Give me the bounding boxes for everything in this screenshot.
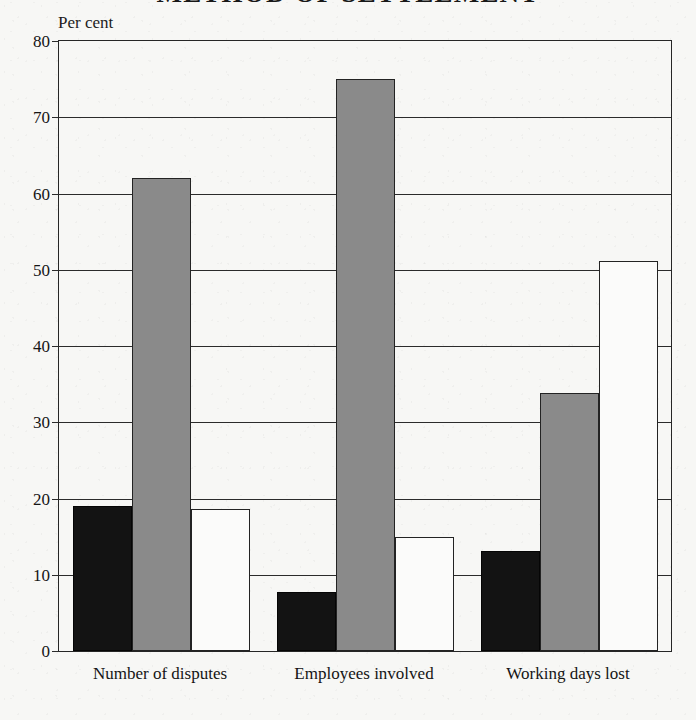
- y-tick-label-40: 40: [33, 338, 50, 355]
- y-tick-mark-50: [52, 270, 59, 271]
- y-tick-mark-0: [52, 651, 59, 652]
- y-tick-mark-60: [52, 194, 59, 195]
- y-tick-label-70: 70: [33, 109, 50, 126]
- y-tick-label-20: 20: [33, 490, 50, 507]
- bar-grey-3: [540, 393, 599, 651]
- x-axis-label-2: Employees involved: [262, 664, 466, 684]
- y-tick-mark-30: [52, 422, 59, 423]
- y-axis-unit-label: Per cent: [58, 14, 113, 32]
- page-title: METHOD OF SETTLEMENT: [0, 0, 696, 8]
- y-tick-mark-70: [52, 117, 59, 118]
- y-tick-label-60: 60: [33, 185, 50, 202]
- y-tick-mark-20: [52, 499, 59, 500]
- x-axis-label-1: Number of disputes: [58, 664, 262, 684]
- y-tick-mark-80: [52, 41, 59, 42]
- plot-area: 01020304050607080: [58, 40, 672, 652]
- bar-grey-1: [132, 178, 191, 651]
- y-tick-mark-10: [52, 575, 59, 576]
- bar-black-2: [277, 592, 336, 651]
- y-tick-mark-40: [52, 346, 59, 347]
- bar-white-2: [395, 537, 454, 651]
- y-tick-label-10: 10: [33, 566, 50, 583]
- x-axis-label-3: Working days lost: [466, 664, 670, 684]
- y-tick-label-80: 80: [33, 33, 50, 50]
- bar-white-3: [599, 261, 658, 651]
- bar-black-3: [481, 551, 540, 651]
- bar-white-1: [191, 509, 250, 651]
- y-tick-label-50: 50: [33, 261, 50, 278]
- bar-grey-2: [336, 79, 395, 651]
- y-tick-label-0: 0: [42, 643, 51, 660]
- y-tick-label-30: 30: [33, 414, 50, 431]
- bar-black-1: [73, 506, 132, 651]
